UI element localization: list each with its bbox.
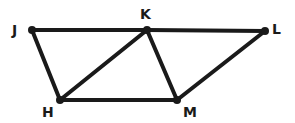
point-M [173, 96, 181, 104]
segment-KM [147, 30, 177, 100]
point-H [56, 96, 64, 104]
segment-JH [32, 30, 60, 100]
label-J: J [11, 22, 17, 38]
segment-HK [60, 30, 147, 100]
label-H: H [42, 104, 54, 120]
label-L: L [272, 21, 281, 37]
segment-ML [177, 31, 265, 100]
label-M: M [183, 104, 197, 120]
point-K [143, 26, 151, 34]
segments [32, 30, 265, 100]
segment-KL [147, 30, 265, 31]
labels: J K L H M [11, 6, 281, 120]
label-K: K [140, 6, 152, 22]
point-J [28, 26, 36, 34]
point-L [261, 27, 269, 35]
geometry-diagram: J K L H M [0, 0, 295, 123]
